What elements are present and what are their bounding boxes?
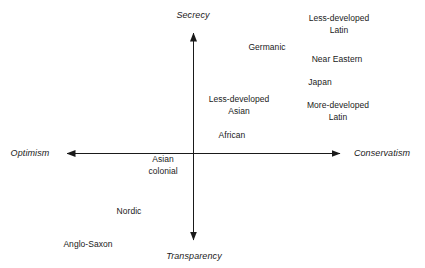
axis-label-secrecy: Secrecy	[176, 10, 209, 21]
axis-label-transparency: Transparency	[166, 251, 222, 262]
point-label-germanic: Germanic	[248, 42, 285, 54]
point-label-african: African	[219, 130, 246, 142]
point-label-less-developed-latin: Less-developed Latin	[309, 13, 370, 36]
point-label-near-eastern: Near Eastern	[312, 54, 363, 66]
axis-label-conservatism: Conservatism	[354, 148, 410, 159]
point-label-nordic: Nordic	[117, 206, 142, 218]
point-label-japan: Japan	[308, 77, 331, 89]
point-label-anglo-saxon: Anglo-Saxon	[63, 239, 112, 251]
axis-layer	[0, 0, 425, 268]
axis-label-optimism: Optimism	[11, 148, 50, 159]
point-label-more-developed-latin: More-developed Latin	[307, 100, 369, 123]
point-label-less-developed-asian: Less-developed Asian	[209, 94, 270, 117]
point-label-asian-colonial: Asian colonial	[148, 154, 177, 177]
quadrant-diagram: Optimism Conservatism Secrecy Transparen…	[0, 0, 425, 268]
